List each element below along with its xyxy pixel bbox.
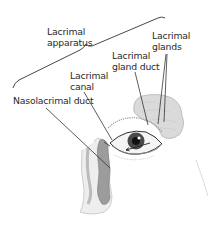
label-lacrimal-apparatus: Lacrimal apparatus [47, 26, 92, 48]
label-line: canal [70, 81, 108, 92]
label-nasolacrimal-duct: Nasolacrimal duct [13, 95, 93, 106]
nasal-region [80, 138, 112, 214]
label-line: Lacrimal [112, 50, 159, 61]
eye [110, 131, 162, 160]
label-line: Lacrimal [70, 70, 108, 81]
label-line: Nasolacrimal duct [13, 95, 93, 106]
nasolacrimal-duct-shape [97, 140, 110, 205]
leader-nasolacrimal-duct [46, 108, 110, 168]
label-lacrimal-gland-duct: Lacrimal gland duct [112, 50, 159, 72]
label-line: Lacrimal [152, 30, 190, 41]
label-lacrimal-canal: Lacrimal canal [70, 70, 108, 92]
label-line: Lacrimal [47, 26, 92, 37]
label-lacrimal-glands: Lacrimal glands [152, 30, 190, 52]
label-line: apparatus [47, 37, 92, 48]
lacrimal-apparatus-diagram: Lacrimal apparatus Lacrimal glands Lacri… [0, 0, 220, 225]
label-line: gland duct [112, 61, 159, 72]
